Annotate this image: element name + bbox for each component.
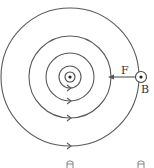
wire-b-label: B xyxy=(141,83,149,96)
field-diagram: F B xyxy=(0,0,154,168)
wire-stub-icon xyxy=(67,161,73,168)
force-label: F xyxy=(121,64,129,77)
center-wire-icon xyxy=(65,72,75,82)
wire-stub-icon xyxy=(138,161,144,168)
wire-b-icon xyxy=(136,72,147,83)
